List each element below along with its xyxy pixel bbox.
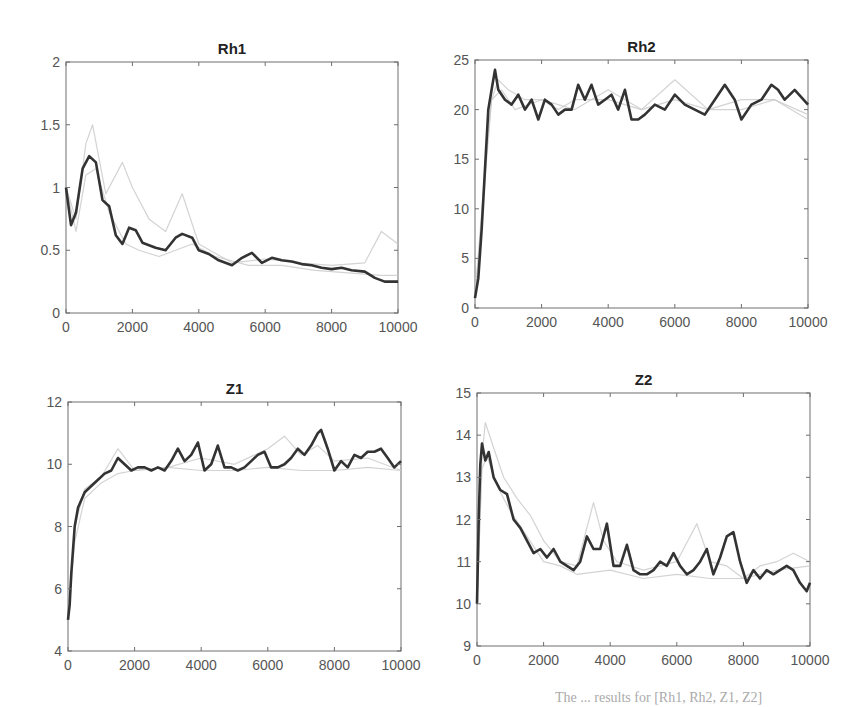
- z2-chart-svg: 02000400060008000100009101112131415Z2: [0, 0, 862, 707]
- y-tick-label: 11: [456, 554, 471, 570]
- x-tick-label: 0: [473, 652, 481, 668]
- y-tick-label: 9: [463, 638, 471, 654]
- y-tick-label: 10: [455, 596, 471, 612]
- subplot-z2: 02000400060008000100009101112131415Z2: [0, 0, 862, 707]
- axes-box: [477, 393, 810, 646]
- y-tick-label: 13: [455, 469, 471, 485]
- y-tick-label: 14: [455, 427, 471, 443]
- y-tick-label: 12: [455, 512, 471, 528]
- x-tick-label: 2000: [528, 652, 559, 668]
- y-tick-label: 15: [455, 385, 471, 401]
- subplot-title: Z2: [635, 371, 653, 388]
- figure-caption-fragment: The ... results for [Rh1, Rh2, Z1, Z2]: [555, 690, 862, 707]
- x-tick-label: 4000: [595, 652, 626, 668]
- x-tick-label: 6000: [661, 652, 692, 668]
- x-tick-label: 10000: [791, 652, 830, 668]
- x-tick-label: 8000: [728, 652, 759, 668]
